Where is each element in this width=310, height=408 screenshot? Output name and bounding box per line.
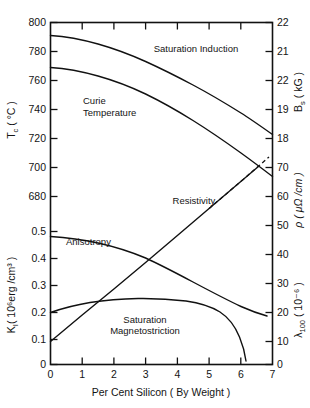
top-axis-ticks (82, 23, 241, 30)
curve-curie-temperature (51, 68, 273, 177)
x-tick-labels: 0 1 2 3 4 5 6 7 (48, 368, 276, 380)
curve-label-curie-line2: Temperature (83, 107, 136, 118)
bottom-axis-ticks (82, 358, 241, 365)
curve-label-magnetostriction-line2: Magnetostriction (110, 325, 180, 336)
k1-tick-0: 0 (40, 358, 46, 370)
x-tick-5: 5 (206, 368, 212, 380)
x-tick-2: 2 (111, 368, 117, 380)
curve-label-saturation-induction: Saturation Induction (154, 43, 239, 54)
lambda-units: ( 10⁻⁶ ) (292, 282, 304, 317)
rho-tick-50: 50 (277, 219, 289, 231)
rho-tick-10: 10 (277, 335, 289, 347)
right-axis-lambda-title: λ100 ( 10⁻⁶ ) (292, 282, 307, 338)
k1-units: ( 10⁶erg /cm³ ) (5, 257, 17, 324)
x-tick-7: 7 (270, 368, 276, 380)
rho-tick-30: 30 (277, 277, 289, 289)
k1-tick-01: 0.1 (31, 333, 46, 345)
svg-text:ρ ( μΩ /cm ): ρ ( μΩ /cm ) (292, 172, 304, 228)
tc-tick-720: 720 (28, 132, 46, 144)
bs-tick-0: 22 (277, 16, 289, 28)
k1-tick-05: 0.5 (31, 225, 46, 237)
curve-label-magnetostriction-line1: Saturation (123, 314, 166, 325)
figure-container: 0 1 2 3 4 5 6 7 Per Cent Silicon ( By We… (0, 0, 310, 408)
svg-text:Bs ( kG ): Bs ( kG ) (292, 72, 307, 112)
left-axis-tc-ticks (51, 23, 58, 197)
bs-tick-1: 21 (277, 45, 289, 57)
x-axis-title: Per Cent Silicon ( By Weight ) (92, 386, 231, 398)
x-tick-0: 0 (48, 368, 54, 380)
x-tick-3: 3 (143, 368, 149, 380)
right-axis-bs-labels: 22 21 22 19 18 (277, 16, 289, 144)
svg-text:λ100 ( 10⁻⁶ ): λ100 ( 10⁻⁶ ) (292, 282, 307, 338)
left-axis-tc-title: Tc ( °C ) (5, 101, 20, 139)
rho-tick-20: 20 (277, 306, 289, 318)
x-tick-6: 6 (238, 368, 244, 380)
rho-units: ( μΩ /cm ) (292, 172, 304, 218)
k1-tick-03: 0.3 (31, 279, 46, 291)
silicon-steel-properties-chart: 0 1 2 3 4 5 6 7 Per Cent Silicon ( By We… (0, 0, 310, 408)
k1-tick-02: 0.2 (31, 306, 46, 318)
tc-tick-780: 780 (28, 45, 46, 57)
lambda-subscript: 100 (298, 320, 307, 333)
left-axis-k1-ticks (51, 232, 58, 365)
right-axis-bs-title: Bs ( kG ) (292, 72, 307, 112)
x-tick-1: 1 (79, 368, 85, 380)
right-axis-rho-ticks (266, 168, 273, 365)
x-tick-4: 4 (174, 368, 180, 380)
tc-tick-740: 740 (28, 103, 46, 115)
left-axis-tc-labels: 800 780 760 740 720 700 680 (28, 16, 46, 202)
rho-tick-40: 40 (277, 248, 289, 260)
right-axis-rho-labels: 70 60 50 40 30 20 10 0 (277, 161, 289, 370)
tc-tick-760: 760 (28, 74, 46, 86)
tc-tick-700: 700 (28, 161, 46, 173)
tc-tick-680: 680 (28, 190, 46, 202)
curve-label-resistivity: Resistivity (173, 195, 216, 206)
right-axis-rho-title: ρ ( μΩ /cm ) (292, 172, 304, 228)
curve-label-curie-line1: Curie (83, 95, 106, 106)
rho-tick-60: 60 (277, 190, 289, 202)
bs-tick-4: 18 (277, 132, 289, 144)
right-axis-bs-ticks (266, 23, 273, 139)
bs-units: ( kG ) (292, 72, 304, 98)
tc-tick-800: 800 (28, 16, 46, 28)
left-axis-k1-title: KI( 10⁶erg /cm³ ) (5, 257, 20, 333)
bs-tick-3: 19 (277, 103, 289, 115)
tc-units: ( °C ) (5, 101, 17, 126)
rho-tick-70: 70 (277, 161, 289, 173)
left-axis-k1-labels: 0.5 0.4 0.3 0.2 0.1 0 (31, 225, 46, 370)
rho-symbol: ρ (292, 222, 304, 229)
k1-symbol: K (5, 326, 17, 333)
k1-tick-04: 0.4 (31, 252, 46, 264)
svg-text:KI( 10⁶erg /cm³ ): KI( 10⁶erg /cm³ ) (5, 257, 20, 333)
rho-tick-0: 0 (277, 358, 283, 370)
bs-symbol: B (292, 105, 304, 112)
bs-tick-2: 22 (277, 74, 289, 86)
curve-label-anisotropy: Anisotropy (66, 236, 111, 247)
svg-text:Tc ( °C ): Tc ( °C ) (5, 101, 20, 139)
